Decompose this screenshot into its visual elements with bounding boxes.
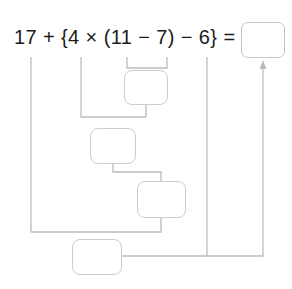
work-box-step-1[interactable]	[124, 70, 168, 105]
wire-box3-to-box4	[31, 218, 161, 232]
wire-box2-to-box3	[113, 164, 161, 181]
work-box-step-3[interactable]	[137, 181, 186, 218]
math-expression: 17 + {4 × (11 − 7) − 6} =	[14, 26, 235, 49]
work-box-step-2[interactable]	[90, 128, 136, 164]
worksheet-canvas: 17 + {4 × (11 − 7) − 6} =	[0, 0, 292, 289]
wire-paren-bracket	[127, 57, 167, 68]
answer-input-box[interactable]	[241, 22, 285, 58]
answer-arrowhead	[260, 60, 267, 69]
work-box-step-4[interactable]	[72, 239, 122, 275]
